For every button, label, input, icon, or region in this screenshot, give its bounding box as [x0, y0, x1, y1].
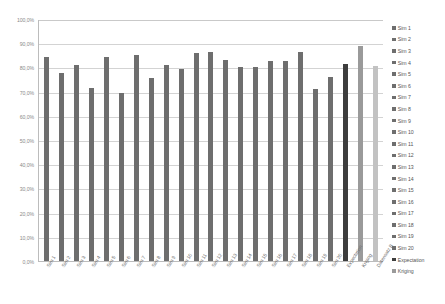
legend-swatch-icon [392, 200, 396, 204]
x-axis-slot: Datensatz B [368, 263, 383, 304]
bar[interactable] [253, 67, 258, 261]
bar[interactable] [373, 66, 378, 261]
legend-label: Expectation [398, 257, 425, 263]
legend-item[interactable]: Sim 13 [392, 161, 445, 173]
x-axis-slot: Sim 9 [158, 263, 173, 304]
legend-swatch-icon [392, 188, 396, 192]
bar[interactable] [164, 65, 169, 261]
bar[interactable] [89, 88, 94, 261]
bar-series [39, 20, 383, 261]
x-axis-slot: Sim 5 [98, 263, 113, 304]
bar[interactable] [328, 77, 333, 261]
legend-item[interactable]: Sim 17 [392, 208, 445, 220]
x-axis-slot: Sim 2 [53, 263, 68, 304]
legend-swatch-icon [392, 246, 396, 250]
bar-slot [69, 20, 84, 261]
bar-slot [233, 20, 248, 261]
legend-item[interactable]: Sim 2 [392, 34, 445, 46]
bar[interactable] [268, 61, 273, 261]
y-axis-tick: 40,0% [20, 162, 34, 168]
bar[interactable] [44, 57, 49, 261]
y-axis-tick: 90,0% [20, 41, 34, 47]
legend-label: Sim 2 [398, 36, 411, 42]
legend-swatch-icon [392, 258, 396, 262]
legend-label: Sim 4 [398, 60, 411, 66]
bar-slot [218, 20, 233, 261]
legend-swatch-icon [392, 154, 396, 158]
bar-slot [129, 20, 144, 261]
bar-slot [338, 20, 353, 261]
legend-item[interactable]: Sim 19 [392, 231, 445, 243]
legend-item[interactable]: Expectation [392, 254, 445, 266]
legend-item[interactable]: Sim 7 [392, 92, 445, 104]
legend-label: Sim 7 [398, 94, 411, 100]
bar[interactable] [208, 52, 213, 261]
legend-swatch-icon [392, 72, 396, 76]
bar[interactable] [298, 52, 303, 261]
bar[interactable] [343, 64, 348, 261]
legend-item[interactable]: Sim 10 [392, 126, 445, 138]
y-axis-tick: 10,0% [20, 235, 34, 241]
legend-item[interactable]: Kriging [392, 265, 445, 277]
legend-item[interactable]: Sim 6 [392, 80, 445, 92]
legend-item[interactable]: Sim 12 [392, 150, 445, 162]
legend-swatch-icon [392, 223, 396, 227]
bar[interactable] [238, 67, 243, 261]
bar-slot [278, 20, 293, 261]
legend-item[interactable]: Sim 5 [392, 68, 445, 80]
x-axis-slot: Sim 3 [68, 263, 83, 304]
legend-item[interactable]: Sim 20 [392, 242, 445, 254]
bar[interactable] [74, 65, 79, 261]
legend-item[interactable]: Sim 9 [392, 115, 445, 127]
legend-swatch-icon [392, 107, 396, 111]
legend-item[interactable]: Sim 3 [392, 45, 445, 57]
legend-swatch-icon [392, 212, 396, 216]
bar-chart: 100,0%90,0%80,0%70,0%60,0%50,0%40,0%30,0… [0, 0, 445, 304]
legend-item[interactable]: Sim 18 [392, 219, 445, 231]
legend-item[interactable]: Sim 4 [392, 57, 445, 69]
bar-slot [159, 20, 174, 261]
bar-slot [308, 20, 323, 261]
bar[interactable] [59, 73, 64, 261]
legend-swatch-icon [392, 49, 396, 53]
legend-item[interactable]: Sim 11 [392, 138, 445, 150]
legend-label: Sim 13 [398, 164, 414, 170]
bar[interactable] [134, 55, 139, 261]
x-axis-slot: Sim 20 [323, 263, 338, 304]
bar[interactable] [194, 53, 199, 261]
bar-slot [203, 20, 218, 261]
legend-item[interactable]: Sim 14 [392, 173, 445, 185]
legend-item[interactable]: Sim 1 [392, 22, 445, 34]
plot-wrapper: 100,0%90,0%80,0%70,0%60,0%50,0%40,0%30,0… [0, 0, 390, 304]
legend-label: Sim 20 [398, 245, 414, 251]
legend-label: Sim 1 [398, 25, 411, 31]
bar-slot [174, 20, 189, 261]
bar[interactable] [223, 60, 228, 261]
x-axis-slot: Sim 18 [293, 263, 308, 304]
y-axis-tick: 60,0% [20, 114, 34, 120]
bar[interactable] [149, 78, 154, 261]
bar-slot [189, 20, 204, 261]
plot-area [38, 20, 383, 262]
legend-swatch-icon [392, 130, 396, 134]
legend-swatch-icon [392, 26, 396, 30]
legend-item[interactable]: Sim 15 [392, 184, 445, 196]
bar[interactable] [104, 57, 109, 261]
bar[interactable] [119, 93, 124, 261]
legend-item[interactable]: Sim 8 [392, 103, 445, 115]
bar[interactable] [283, 61, 288, 261]
bar[interactable] [179, 69, 184, 261]
legend-item[interactable]: Sim 16 [392, 196, 445, 208]
x-axis-slot: Expectation [338, 263, 353, 304]
x-axis-slot: Sim 6 [113, 263, 128, 304]
legend-label: Sim 14 [398, 176, 414, 182]
chart-legend: Sim 1Sim 2Sim 3Sim 4Sim 5Sim 6Sim 7Sim 8… [392, 22, 445, 296]
x-axis-slot: Sim 13 [218, 263, 233, 304]
bar-slot [39, 20, 54, 261]
bar-slot [144, 20, 159, 261]
x-axis-slot: Sim 12 [203, 263, 218, 304]
legend-label: Sim 18 [398, 222, 414, 228]
x-axis-slot: Sim 15 [248, 263, 263, 304]
bar[interactable] [358, 46, 363, 261]
bar[interactable] [313, 89, 318, 261]
